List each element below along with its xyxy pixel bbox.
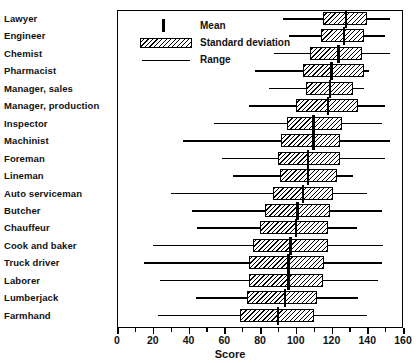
x-tick-label: 160 (394, 334, 412, 346)
mean-marker (277, 307, 279, 325)
category-label: Manager, production (4, 101, 99, 111)
category-label: Chemist (4, 49, 42, 59)
legend-label-mean: Mean (200, 20, 226, 31)
mean-marker (312, 132, 314, 150)
mean-marker (284, 289, 286, 307)
mean-marker (312, 115, 314, 133)
legend-item-mean: Mean (140, 18, 290, 35)
standard-deviation-box (281, 134, 340, 147)
x-tick-label: 0 (114, 334, 120, 346)
category-label: Farmhand (4, 311, 51, 321)
category-label: Chauffeur (4, 223, 50, 233)
box-whisker-row (117, 203, 403, 219)
x-tick-label: 60 (218, 334, 230, 346)
box-whisker-row (117, 308, 403, 324)
box-whisker-row (117, 133, 403, 149)
mean-marker (337, 45, 339, 63)
box-whisker-row (117, 168, 403, 184)
mean-marker (302, 185, 304, 203)
x-tick-label: 120 (323, 334, 341, 346)
mean-marker (343, 27, 345, 45)
x-tick-label: 140 (358, 334, 376, 346)
x-tick-label: 100 (287, 334, 305, 346)
mean-marker (345, 10, 347, 28)
category-label: Lumberjack (4, 293, 58, 303)
range-whisker (171, 193, 368, 195)
mean-marker (295, 219, 297, 237)
box-whisker-row (117, 98, 403, 114)
category-axis-labels: LawyerEngineerChemistPharmacistManager, … (0, 0, 118, 340)
x-tick-minor (385, 328, 386, 332)
box-whisker-row (117, 255, 403, 271)
legend-label-range: Range (200, 54, 231, 65)
category-label: Lineman (4, 171, 44, 181)
chart-figure: LawyerEngineerChemistPharmacistManager, … (0, 0, 416, 363)
x-tick-minor (278, 328, 279, 332)
x-tick-label: 40 (183, 334, 195, 346)
x-tick-minor (171, 328, 172, 332)
x-tick-minor (314, 328, 315, 332)
x-tick-minor (135, 328, 136, 332)
category-label: Laborer (4, 276, 40, 286)
hatched-box-icon (140, 35, 192, 51)
box-whisker-row (117, 151, 403, 167)
legend-item-range: Range (140, 52, 290, 69)
legend-item-standard-deviation: Standard deviation (140, 35, 290, 52)
x-tick-minor (242, 328, 243, 332)
category-label: Foreman (4, 154, 45, 164)
mean-marker (330, 62, 332, 80)
x-tick-minor (349, 328, 350, 332)
box-whisker-row (117, 290, 403, 306)
category-label: Cook and baker (4, 241, 77, 251)
x-tick-minor (206, 328, 207, 332)
category-label: Manager, sales (4, 84, 73, 94)
x-tick-label: 80 (254, 334, 266, 346)
mean-marker (287, 254, 289, 272)
category-label: Machinist (4, 136, 49, 146)
mean-marker (296, 202, 298, 220)
box-whisker-row (117, 186, 403, 202)
range-line-icon (140, 52, 192, 68)
standard-deviation-box (310, 47, 362, 60)
category-label: Butcher (4, 206, 41, 216)
category-label: Inspector (4, 119, 48, 129)
legend-label-standard-deviation: Standard deviation (200, 37, 290, 48)
standard-deviation-box (303, 64, 364, 77)
mean-marker (287, 272, 289, 290)
box-whisker-row (117, 220, 403, 236)
x-tick-label: 20 (147, 334, 159, 346)
box-whisker-row (117, 238, 403, 254)
category-label: Truck driver (4, 258, 60, 268)
category-label: Pharmacist (4, 66, 56, 76)
box-whisker-row (117, 81, 403, 97)
x-axis-title: Score (0, 348, 416, 360)
mean-marker (327, 97, 329, 115)
mean-marker (329, 80, 331, 98)
standard-deviation-box (249, 274, 322, 287)
mean-marker (307, 150, 309, 168)
standard-deviation-box (247, 291, 317, 304)
x-axis-title-label: Score (171, 348, 246, 360)
box-whisker-row (117, 273, 403, 289)
mean-marker (289, 237, 291, 255)
mean-marker (307, 167, 309, 185)
category-label: Engineer (4, 31, 45, 41)
category-label: Lawyer (4, 14, 37, 24)
mean-marker-icon (140, 18, 192, 34)
box-whisker-row (117, 116, 403, 132)
chart-legend: Mean Standard deviation Range (140, 18, 290, 69)
category-label: Auto serviceman (4, 189, 82, 199)
